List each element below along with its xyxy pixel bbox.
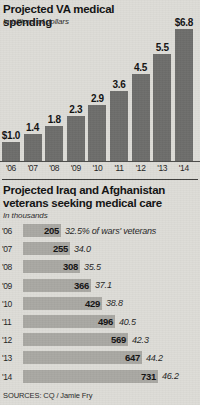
- chart2-bar-value: 308: [48, 261, 78, 272]
- chart2-row: '0830835.5: [0, 260, 200, 274]
- chart1-bar-label: 3.6: [108, 79, 130, 90]
- chart2-row-year: '13: [2, 353, 20, 363]
- chart2-row: '0725534.0: [0, 242, 200, 256]
- chart2-bar-annotation: 38.8: [106, 298, 123, 308]
- chart1-x-tick: '10: [86, 163, 108, 173]
- chart1-x-tick: '09: [65, 163, 87, 173]
- chart2-row-year: '12: [2, 335, 20, 345]
- chart2-row-year: '14: [2, 372, 20, 382]
- veterans-seeking-care-chart: Projected Iraq and Afghanistan veterans …: [0, 180, 200, 405]
- chart1-bar: [132, 74, 150, 161]
- chart1-bar: [175, 29, 193, 161]
- chart2-row-year: '11: [2, 317, 20, 327]
- chart2-bar-value: 647: [110, 352, 140, 363]
- chart2-row-year: '08: [2, 262, 20, 272]
- chart1-x-tick: '07: [22, 163, 44, 173]
- chart2-row: '1256942.3: [0, 333, 200, 347]
- chart1-x-tick: '11: [108, 163, 130, 173]
- chart2-bar-annotation: 46.2: [162, 371, 179, 381]
- chart2-row: '1149640.5: [0, 315, 200, 329]
- chart2-bar-annotation: 40.5: [119, 317, 136, 327]
- chart1-x-tick: '12: [130, 163, 152, 173]
- chart1-bar-label: 4.5: [130, 62, 152, 73]
- chart1-bar-label: 5.5: [151, 42, 173, 53]
- chart2-subtitle: In thousands: [3, 211, 153, 220]
- chart1-x-tick: '08: [43, 163, 65, 173]
- chart1-baseline: [0, 161, 200, 162]
- chart2-bar-value: 429: [70, 298, 100, 309]
- chart2-bar-value: 205: [29, 225, 59, 236]
- chart1-bar: [2, 142, 20, 161]
- chart1-bar-label: 2.3: [65, 104, 87, 115]
- chart1-bar-label: 1.8: [43, 114, 65, 125]
- chart2-bar-annotation: 34.0: [74, 244, 91, 254]
- chart1-x-tick: '06: [0, 163, 22, 173]
- chart2-row: '0936637.1: [0, 279, 200, 293]
- chart2-row-year: '09: [2, 281, 20, 291]
- chart1-bar: [110, 91, 128, 161]
- va-medical-spending-chart: Projected VA medical spending In billion…: [0, 0, 200, 180]
- chart2-row: '0620532.5% of wars' veterans: [0, 224, 200, 238]
- chart2-title: Projected Iraq and Afghanistan veterans …: [3, 184, 197, 209]
- chart2-bar-value: 569: [96, 334, 126, 345]
- chart1-bar-label: 1.4: [22, 122, 44, 133]
- chart2-bar-annotation: 44.2: [146, 353, 163, 363]
- chart1-x-tick: '14: [173, 163, 195, 173]
- chart2-row: '1042938.8: [0, 297, 200, 311]
- chart2-bar-value: 731: [126, 371, 156, 382]
- chart2-bar-value: 366: [59, 280, 89, 291]
- chart1-bar-label: $6.8: [167, 17, 200, 28]
- chart2-row-year: '10: [2, 299, 20, 309]
- chart2-row: '1473146.2: [0, 370, 200, 384]
- chart1-bar-label: 2.9: [86, 93, 108, 104]
- chart1-bar: [153, 54, 171, 161]
- chart1-bar: [67, 116, 85, 161]
- chart1-subtitle: In billions of dollars: [3, 17, 153, 26]
- chart1-bar: [45, 126, 63, 161]
- chart1-bar: [88, 105, 106, 161]
- chart2-bar-annotation: 32.5% of wars' veterans: [65, 226, 156, 236]
- chart1-x-tick: '13: [151, 163, 173, 173]
- chart2-row-year: '06: [2, 226, 20, 236]
- chart2-bar-annotation: 42.3: [132, 335, 149, 345]
- chart2-bar-annotation: 37.1: [95, 280, 112, 290]
- chart2-bar-value: 255: [38, 243, 68, 254]
- sources-line: SOURCES: CQ / Jamie Fry: [3, 391, 92, 400]
- chart2-row-year: '07: [2, 244, 20, 254]
- chart2-bar-value: 496: [83, 316, 113, 327]
- chart2-bar-annotation: 35.5: [84, 262, 101, 272]
- chart2-row: '1364744.2: [0, 351, 200, 365]
- infographic-page: Projected VA medical spending In billion…: [0, 0, 200, 405]
